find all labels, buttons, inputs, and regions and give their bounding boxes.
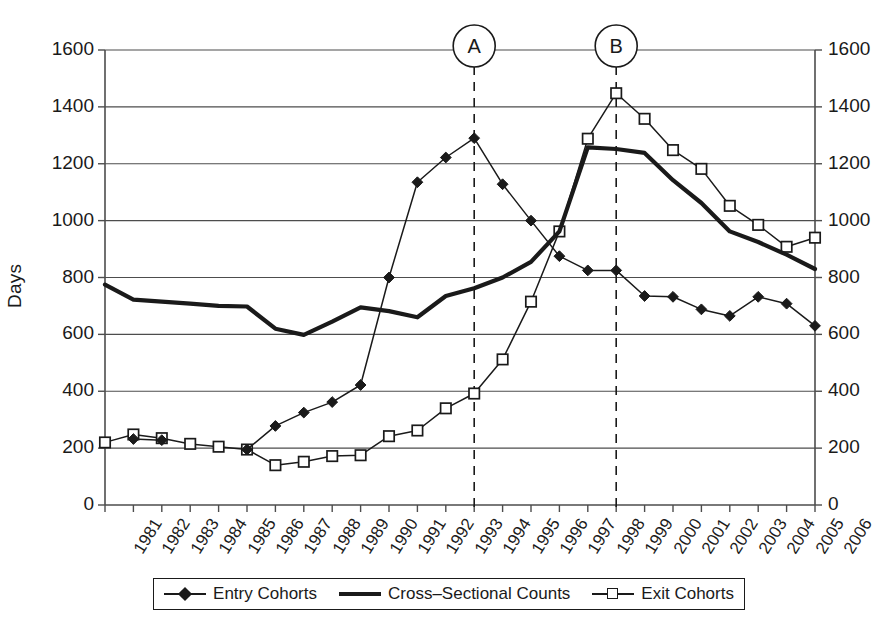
data-point-marker-square <box>270 460 280 470</box>
annotation-label: A <box>468 35 482 57</box>
data-point-marker-square <box>810 232 820 242</box>
data-point-marker-square <box>384 431 394 441</box>
chart-legend: Entry CohortsCross–Sectional CountsExit … <box>153 578 745 610</box>
open-square-line-icon <box>592 587 634 601</box>
data-point-marker-square <box>668 145 678 155</box>
data-point-marker-diamond <box>582 265 593 276</box>
legend-label: Entry Cohorts <box>213 584 317 604</box>
data-point-marker-square <box>639 114 649 124</box>
legend-label: Exit Cohorts <box>641 584 734 604</box>
data-point-marker-diamond <box>469 133 480 144</box>
legend-item[interactable]: Exit Cohorts <box>581 584 745 604</box>
data-point-marker-square <box>469 388 479 398</box>
filled-diamond-line-icon <box>164 587 206 601</box>
legend-item[interactable]: Cross–Sectional Counts <box>328 584 581 604</box>
data-point-marker-square <box>611 88 621 98</box>
data-point-marker-square <box>583 134 593 144</box>
data-point-marker-square <box>412 425 422 435</box>
data-point-marker-diamond <box>696 304 707 315</box>
data-point-marker-square <box>497 354 507 364</box>
annotation-label: B <box>610 35 623 57</box>
data-point-marker-square <box>299 457 309 467</box>
data-point-marker-diamond <box>355 380 366 391</box>
data-point-marker-diamond <box>327 397 338 408</box>
data-point-marker-square <box>355 450 365 460</box>
data-point-marker-diamond <box>724 310 735 321</box>
data-point-marker-square <box>696 164 706 174</box>
data-point-marker-diamond <box>668 291 679 302</box>
data-point-marker-square <box>526 296 536 306</box>
data-point-marker-square <box>725 201 735 211</box>
plot-area: AB <box>0 0 895 641</box>
thick-line-icon <box>339 587 381 601</box>
data-point-marker-square <box>441 403 451 413</box>
data-point-marker-diamond <box>384 272 395 283</box>
series-line-cross-sectional-counts <box>105 147 815 335</box>
data-point-marker-square <box>753 220 763 230</box>
legend-item[interactable]: Entry Cohorts <box>153 584 328 604</box>
data-point-marker-square <box>185 439 195 449</box>
data-point-marker-square <box>327 451 337 461</box>
data-point-marker-square <box>100 437 110 447</box>
chart-figure: Days 02004006008001000120014001600 02004… <box>0 0 895 641</box>
data-point-marker-diamond <box>753 291 764 302</box>
data-point-marker-square <box>781 242 791 252</box>
data-point-marker-diamond <box>298 407 309 418</box>
legend-label: Cross–Sectional Counts <box>388 584 570 604</box>
series-line-exit-cohorts <box>105 93 815 465</box>
data-point-marker-square <box>213 442 223 452</box>
